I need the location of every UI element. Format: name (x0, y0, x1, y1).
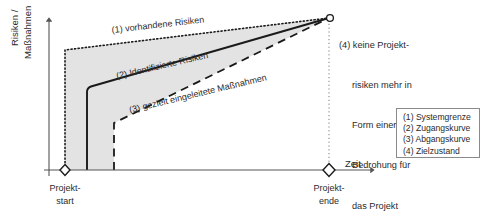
legend-item-2: (2) Zugangskurve (403, 123, 479, 134)
note-line-5: das Projekt (339, 200, 459, 213)
y-axis-label-line2: Maßnahmen (22, 6, 33, 59)
project-end-label-line2: ende (319, 196, 339, 206)
note-line-1: (4) keine Projekt- (339, 39, 459, 52)
legend-item-1: (1) Systemgrenze (403, 112, 479, 123)
diagram-root: Risiken / Maßnahmen Zeit Projekt- start … (0, 0, 495, 218)
legend: (1) Systemgrenze (2) Zugangskurve (3) Ab… (396, 108, 480, 158)
project-end-marker (323, 164, 335, 177)
project-start-label-line1: Projekt- (49, 183, 80, 193)
project-start-label-line2: start (56, 196, 74, 206)
target-state-marker (327, 15, 334, 22)
note-line-2: risiken mehr in (339, 79, 459, 92)
legend-item-4: (4) Zielzustand (403, 146, 479, 157)
y-axis-label-line1: Risiken / (9, 9, 20, 46)
note-line-4: Bedrohung für (339, 159, 459, 172)
boundary-curve-label: (1) vorhandene Risiken (111, 15, 205, 35)
legend-item-3: (3) Abgangskurve (403, 134, 479, 145)
